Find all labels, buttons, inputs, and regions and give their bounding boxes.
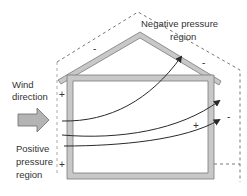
left-wall-top-positive-sign: + bbox=[59, 89, 65, 100]
negative-pressure-label: Negative pressure bbox=[141, 18, 218, 29]
right-exterior-negative-sign: - bbox=[227, 111, 230, 122]
positive-region-label: region bbox=[16, 169, 42, 180]
roof-right-negative-sign: - bbox=[202, 57, 205, 68]
left-wall-bottom-positive-sign: + bbox=[59, 159, 65, 170]
pressure-diagram: Negative pressure region Wind direction … bbox=[0, 0, 247, 196]
positive-pressure-label: pressure bbox=[16, 156, 53, 167]
positive-label: Positive bbox=[16, 143, 49, 154]
wind-direction-label: direction bbox=[12, 91, 48, 102]
negative-region-label: region bbox=[170, 31, 196, 42]
wind-label: Wind bbox=[12, 79, 34, 90]
house-walls bbox=[67, 75, 214, 179]
airflow-line-roof bbox=[62, 57, 181, 121]
interior-positive-sign: + bbox=[193, 120, 199, 131]
wind-arrow-icon bbox=[18, 108, 49, 132]
roof-left-negative-sign: - bbox=[93, 43, 96, 54]
